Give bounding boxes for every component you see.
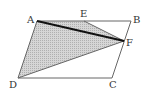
- label-f: F: [126, 37, 133, 48]
- geometry-diagram: A E B F D C: [0, 0, 153, 94]
- label-c: C: [109, 79, 117, 90]
- label-d: D: [9, 79, 17, 90]
- label-b: B: [133, 14, 140, 25]
- label-e: E: [80, 8, 87, 19]
- label-a: A: [26, 14, 35, 25]
